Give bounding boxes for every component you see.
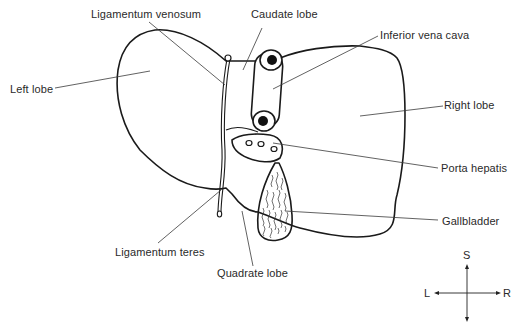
- label-left-lobe: Left lobe: [10, 83, 53, 95]
- compass-label-right: R: [503, 287, 511, 299]
- orientation-compass: [434, 264, 501, 322]
- label-quadrate-lobe: Quadrate lobe: [217, 267, 288, 279]
- leader-inferior-vena-cava: [273, 36, 378, 89]
- compass-label-superior: S: [463, 249, 470, 261]
- ivc-bottom-lumen: [258, 116, 268, 126]
- ivc-top-lumen: [267, 55, 277, 65]
- label-ligamentum-teres: Ligamentum teres: [115, 246, 205, 258]
- label-gallbladder: Gallbladder: [442, 215, 499, 227]
- porta-opening-2: [258, 142, 264, 147]
- gallbladder-shape: [258, 163, 292, 241]
- leader-gallbladder: [285, 211, 438, 220]
- leader-quadrate-lobe: [242, 211, 253, 266]
- label-ligamentum-venosum: Ligamentum venosum: [91, 8, 201, 20]
- label-inferior-vena-cava: Inferior vena cava: [380, 29, 469, 41]
- label-porta-hepatis: Porta hepatis: [441, 162, 507, 174]
- liver-diagram: [0, 0, 517, 330]
- label-right-lobe: Right lobe: [444, 99, 495, 111]
- label-caudate-lobe: Caudate lobe: [251, 8, 318, 20]
- leader-ligamentum-teres: [158, 190, 221, 243]
- leader-ligamentum-venosum: [149, 22, 225, 85]
- caudate-lower-border: [226, 127, 258, 132]
- ligament-bottom-end: [217, 211, 221, 217]
- arrow-right-icon: [496, 291, 501, 295]
- ligament-top-knob: [225, 55, 231, 61]
- arrow-left-icon: [434, 291, 439, 295]
- porta-opening-1: [246, 141, 252, 146]
- arrow-up-icon: [465, 264, 469, 269]
- arrow-down-icon: [465, 317, 469, 322]
- leader-porta-hepatis: [273, 143, 438, 168]
- compass-label-left: L: [424, 287, 430, 299]
- leader-left-lobe: [55, 71, 150, 88]
- leader-right-lobe: [360, 106, 443, 116]
- porta-opening-3: [271, 147, 277, 152]
